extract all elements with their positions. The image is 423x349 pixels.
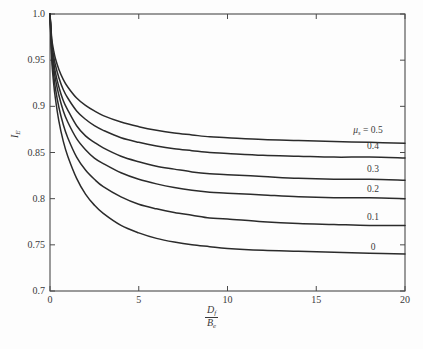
chart-figure: IE Df Be 0.70.750.80.850.90.951.00510152… — [0, 0, 423, 349]
series-label-0p2: 0.2 — [345, 185, 401, 195]
x-axis-title-numerator: Df — [205, 305, 218, 317]
y-axis-tick-label: 0.85 — [6, 148, 45, 158]
series-label-0p4: 0.4 — [345, 142, 401, 152]
x-axis-title-fraction: Df Be — [205, 305, 218, 331]
y-axis-tick-label: 1.0 — [6, 9, 45, 19]
y-axis-title-subscript: E — [14, 130, 22, 134]
y-axis-tick-label: 0.8 — [6, 194, 45, 204]
x-axis-tick-label: 10 — [208, 295, 248, 305]
series-label-value: 0.4 — [367, 141, 379, 151]
series-label-0p3: 0.3 — [345, 165, 401, 175]
y-axis-tick-label: 0.9 — [6, 101, 45, 111]
series-label-0: 0 — [345, 243, 401, 253]
x-axis-title-denominator: Be — [205, 317, 218, 330]
x-axis-tick-label: 0 — [30, 295, 70, 305]
x-axis-title: Df Be — [0, 305, 423, 331]
series-label-value: 0.2 — [367, 184, 379, 194]
y-axis-title-symbol: I — [9, 135, 20, 138]
series-label-value: 0.5 — [371, 125, 383, 135]
series-label-value: 0.1 — [367, 212, 379, 222]
series-label-value: 0 — [371, 242, 376, 252]
series-label-0p1: 0.1 — [345, 213, 401, 223]
equals-sign: = — [361, 125, 371, 135]
y-axis-tick-label: 0.75 — [6, 240, 45, 250]
series-label-0p5: μs = 0.5 — [340, 126, 396, 137]
series-curve-0p3 — [50, 14, 405, 180]
y-axis-title: IE — [9, 130, 22, 138]
x-axis-tick-label: 15 — [296, 295, 336, 305]
series-curve-0p5 — [50, 14, 405, 143]
x-axis-tick-label: 20 — [385, 295, 423, 305]
series-label-value: 0.3 — [367, 164, 379, 174]
x-axis-tick-label: 5 — [119, 295, 159, 305]
y-axis-tick-label: 0.95 — [6, 55, 45, 65]
